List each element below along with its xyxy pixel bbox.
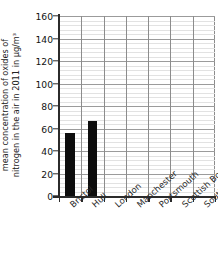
y-tick-label: 140 <box>35 33 53 44</box>
gridline-vertical <box>81 16 82 196</box>
gridline-minor <box>59 97 215 98</box>
gridline-minor <box>59 115 215 116</box>
y-tick-label: 60 <box>41 123 53 134</box>
gridline-major <box>59 39 215 40</box>
gridline-major <box>59 84 215 85</box>
y-tick-label: 120 <box>35 56 53 67</box>
gridline-minor <box>59 124 215 125</box>
y-tick-mark <box>53 83 59 84</box>
y-tick-label: 100 <box>35 78 53 89</box>
y-tick-mark <box>53 60 59 61</box>
gridline-major <box>59 16 215 17</box>
gridline-major <box>59 61 215 62</box>
gridline-minor <box>59 120 215 121</box>
y-tick-label: 20 <box>41 168 53 179</box>
y-tick-label: 160 <box>35 11 53 22</box>
gridline-major <box>59 106 215 107</box>
gridline-minor <box>59 75 215 76</box>
gridline-vertical <box>126 16 127 196</box>
gridline-major <box>59 151 215 152</box>
gridline-minor <box>59 34 215 35</box>
gridline-vertical <box>148 16 149 196</box>
gridline-minor <box>59 79 215 80</box>
y-tick-mark <box>53 128 59 129</box>
gridline-minor <box>59 52 215 53</box>
y-tick-mark <box>53 15 59 16</box>
y-axis-title: mean concentration of oxides of nitrogen… <box>0 0 32 210</box>
gridline-minor <box>59 21 215 22</box>
y-axis-tick-labels: 020406080100120140160 <box>30 0 56 271</box>
y-tick-mark <box>53 105 59 106</box>
gridline-minor <box>59 70 215 71</box>
gridline-minor <box>59 30 215 31</box>
gridline-minor <box>59 48 215 49</box>
gridline-minor <box>59 93 215 94</box>
gridline-minor <box>59 156 215 157</box>
gridline-minor <box>59 66 215 67</box>
y-tick-mark <box>53 173 59 174</box>
gridline-minor <box>59 43 215 44</box>
gridline-minor <box>59 57 215 58</box>
gridline-minor <box>59 88 215 89</box>
gridline-minor <box>59 142 215 143</box>
x-tick-mark <box>59 196 60 202</box>
bar-chart: mean concentration of oxides of nitrogen… <box>0 0 218 271</box>
gridline-minor <box>59 102 215 103</box>
y-tick-mark <box>53 150 59 151</box>
y-tick-label: 80 <box>41 101 53 112</box>
gridline-minor <box>59 111 215 112</box>
gridline-minor <box>59 165 215 166</box>
gridline-minor <box>59 147 215 148</box>
gridline-minor <box>59 160 215 161</box>
gridline-minor <box>59 25 215 26</box>
y-tick-label: 40 <box>41 146 53 157</box>
gridline-minor <box>59 133 215 134</box>
gridline-vertical <box>104 16 105 196</box>
bar-bristol <box>65 133 74 196</box>
y-axis-title-line-2: nitrogen in the air in 2011 in µg/m³ <box>11 33 22 177</box>
gridline-major <box>59 129 215 130</box>
gridline-minor <box>59 138 215 139</box>
y-axis-title-line-1: mean concentration of oxides of <box>0 39 11 172</box>
y-tick-mark <box>53 38 59 39</box>
